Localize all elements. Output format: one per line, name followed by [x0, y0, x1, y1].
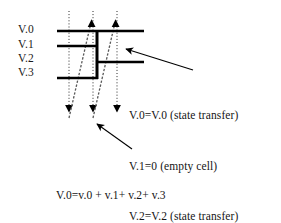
- row-label-v2: V.2: [18, 53, 34, 65]
- row-label-v0: V.0: [18, 24, 34, 36]
- row-label-v3: V.3: [18, 67, 34, 79]
- diagonal-line-up-1: [69, 20, 92, 118]
- annotation-bottom: V.0=v.0 + v.1+ v.2+ v.3 V.1=v.0 + v.1+ v…: [56, 152, 166, 223]
- pointer-arrow-bottom: [97, 124, 132, 149]
- row-label-v1: V.1: [18, 39, 34, 51]
- annotation-bottom-line-1: V.0=v.0 + v.1+ v.2+ v.3: [56, 188, 166, 203]
- pointer-arrow-right: [126, 49, 193, 70]
- diagonal-lines-up-group: [69, 20, 116, 118]
- diagram-canvas: V.0 V.1 V.2 V.3 V.0=V.0 (state transfer)…: [0, 0, 281, 223]
- annotation-right-line-1: V.0=V.0 (state transfer): [129, 108, 238, 123]
